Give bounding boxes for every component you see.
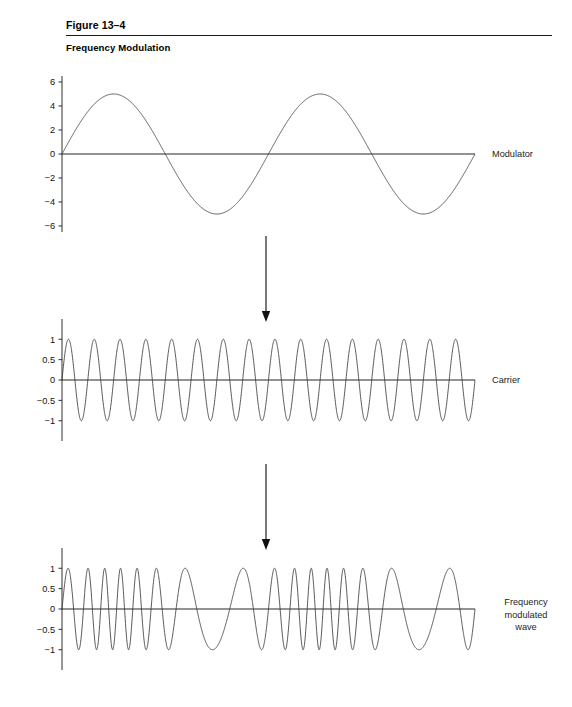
y-axis-tick-label: 0.5 — [42, 355, 55, 365]
figure-header: Figure 13–4 Frequency Modulation — [66, 18, 552, 53]
y-axis-tick-label: 2 — [50, 125, 55, 135]
y-axis-tick-label: 0.5 — [42, 584, 55, 594]
modulator-chart: 6420−2−4−6 — [0, 70, 480, 240]
y-axis-tick-label: 0 — [50, 604, 55, 614]
y-axis-tick-label: 6 — [50, 77, 55, 87]
fm-chart: 10.50−0.5−1 — [0, 546, 480, 674]
carrier-chart: 10.50−0.5−1 — [0, 318, 480, 446]
y-axis-tick-label: 0 — [50, 375, 55, 385]
carrier-label: Carrier — [492, 374, 520, 387]
figure-number: Figure 13–4 — [66, 18, 552, 32]
figure-root: Figure 13–4 Frequency Modulation 6420−2−… — [0, 0, 572, 707]
y-axis-tick-label: −4 — [45, 197, 55, 207]
y-axis-tick-label: 1 — [50, 335, 55, 345]
arrow-carrier-to-fm — [246, 458, 290, 558]
y-axis-tick-label: 0 — [50, 149, 55, 159]
y-axis-tick-label: −0.5 — [37, 396, 55, 406]
header-divider — [66, 35, 552, 36]
modulator-label: Modulator — [492, 148, 533, 161]
fm-label: Frequency modulated wave — [487, 596, 565, 634]
y-axis-tick-label: −1 — [45, 645, 55, 655]
y-axis-tick-label: −0.5 — [37, 625, 55, 635]
y-axis-tick-label: −6 — [45, 221, 55, 231]
y-axis-tick-label: −1 — [45, 416, 55, 426]
y-axis-tick-label: −2 — [45, 173, 55, 183]
arrow-modulator-to-carrier — [246, 230, 290, 330]
y-axis-tick-label: 4 — [50, 101, 55, 111]
y-axis-tick-label: 1 — [50, 564, 55, 574]
figure-caption: Frequency Modulation — [66, 42, 552, 53]
